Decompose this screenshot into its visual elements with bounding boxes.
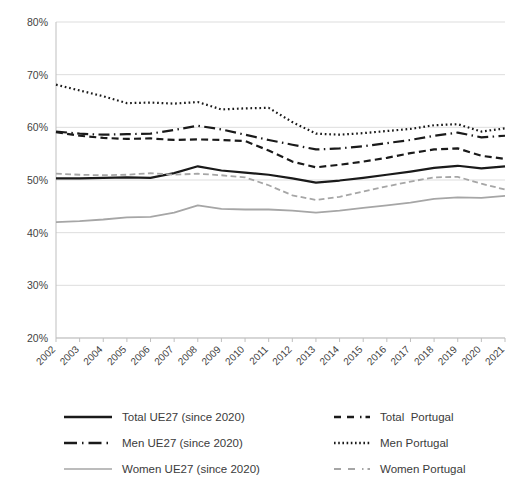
gridlines-group — [56, 22, 505, 338]
dashed-grey-key-icon — [318, 462, 374, 476]
legend-item-men-ue27[interactable]: Men UE27 (since 2020) — [60, 430, 290, 456]
series-line-2 — [56, 196, 505, 222]
plot-area-wrapper: 80%70%60%50%40%30%20% 200220032004200520… — [0, 0, 514, 395]
legend-item-men-portugal[interactable]: Men Portugal — [318, 430, 514, 456]
x-axis-tick-label: 2016 — [365, 343, 389, 367]
x-axis-tick-label: 2006 — [128, 343, 152, 367]
solid-grey-key-icon — [60, 462, 116, 476]
x-axis-tick-label: 2004 — [81, 343, 105, 367]
legend-column-left: Total UE27 (since 2020) Men UE27 (since … — [60, 404, 290, 482]
x-axis-tick-label: 2019 — [436, 343, 460, 367]
y-axis-tick-label: 70% — [27, 69, 48, 81]
legend-label: Women UE27 (since 2020) — [122, 462, 260, 476]
series-line-1 — [56, 126, 505, 150]
x-axis-tick-label: 2003 — [58, 343, 82, 367]
y-axis-tick-label: 80% — [27, 16, 48, 28]
y-axis-tick-label: 20% — [27, 332, 48, 344]
x-tick-labels-group: 2002200320042005200620072008200920102011… — [34, 343, 507, 367]
x-axis-tick-label: 2002 — [34, 343, 58, 367]
chart-legend: Total UE27 (since 2020) Men UE27 (since … — [55, 404, 505, 490]
legend-label: Total Portugal — [380, 410, 454, 424]
y-tick-labels-group: 80%70%60%50%40%30%20% — [27, 16, 48, 344]
x-axis-tick-label: 2005 — [105, 343, 129, 367]
series-group — [56, 85, 505, 222]
x-axis-tick-label: 2021 — [483, 343, 507, 367]
legend-item-women-ue27[interactable]: Women UE27 (since 2020) — [60, 456, 290, 482]
x-axis-tick-label: 2008 — [176, 343, 200, 367]
x-axis-tick-label: 2011 — [247, 343, 270, 366]
legend-label: Men UE27 (since 2020) — [122, 436, 243, 450]
dash-dot-black-key-icon — [60, 436, 116, 450]
y-axis-tick-label: 50% — [27, 174, 48, 186]
chart-figure: 80%70%60%50%40%30%20% 200220032004200520… — [0, 0, 514, 493]
x-axis-tick-label: 2014 — [317, 343, 341, 367]
legend-label: Total UE27 (since 2020) — [122, 410, 245, 424]
x-axis-tick-label: 2012 — [270, 343, 294, 367]
x-axis-tick-label: 2009 — [199, 343, 223, 367]
x-axis-tick-label: 2013 — [294, 343, 318, 367]
legend-item-total-portugal[interactable]: Total Portugal — [318, 404, 514, 430]
x-axis-tick-label: 2010 — [223, 343, 247, 367]
y-axis-tick-label: 60% — [27, 121, 48, 133]
legend-item-women-portugal[interactable]: Women Portugal — [318, 456, 514, 482]
dashed-black-key-icon — [318, 410, 374, 424]
series-line-3 — [56, 132, 505, 167]
x-axis-tick-label: 2015 — [341, 343, 365, 367]
solid-black-key-icon — [60, 410, 116, 424]
legend-label: Men Portugal — [380, 436, 448, 450]
legend-label: Women Portugal — [380, 462, 465, 476]
legend-column-right: Total Portugal Men Portugal Women Portug… — [318, 404, 514, 482]
y-axis-tick-label: 30% — [27, 279, 48, 291]
line-chart-svg: 80%70%60%50%40%30%20% 200220032004200520… — [0, 0, 514, 395]
axis-group — [56, 22, 505, 342]
x-axis-tick-label: 2007 — [152, 343, 176, 367]
x-axis-tick-label: 2020 — [459, 343, 483, 367]
x-axis-tick-label: 2017 — [388, 343, 412, 367]
x-axis-tick-label: 2018 — [412, 343, 436, 367]
y-axis-tick-label: 40% — [27, 227, 48, 239]
dotted-black-key-icon — [318, 436, 374, 450]
legend-item-total-ue27[interactable]: Total UE27 (since 2020) — [60, 404, 290, 430]
